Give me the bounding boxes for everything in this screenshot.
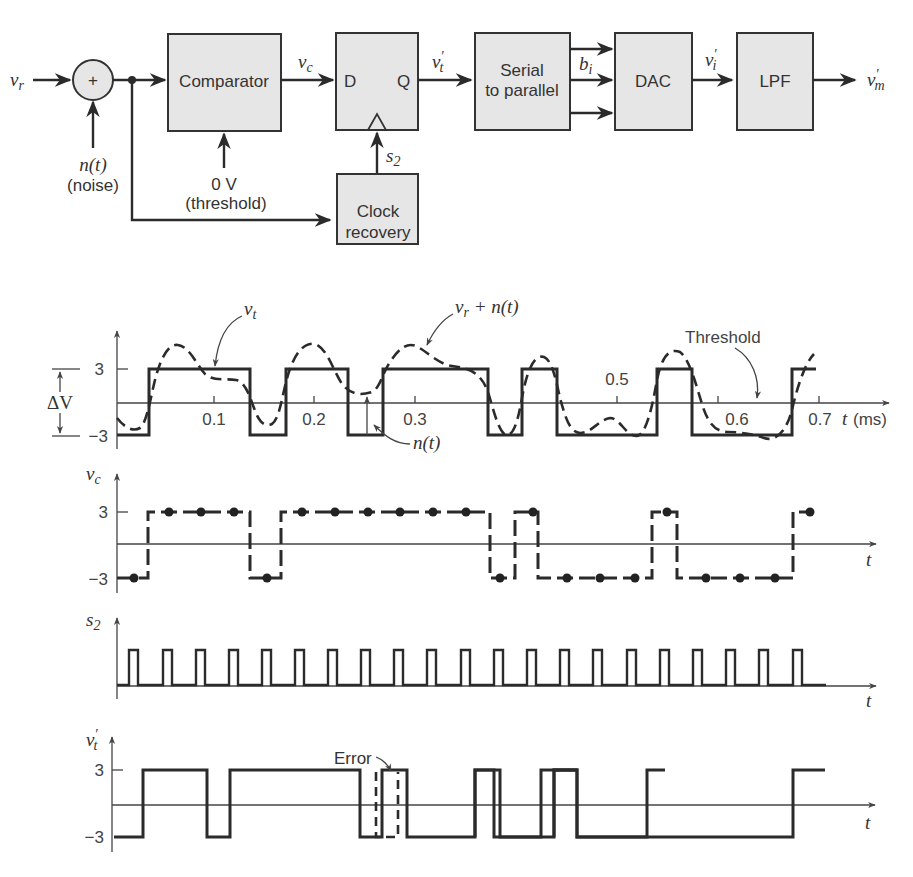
plot4-ylabel: v′t [86,727,99,753]
clock-recovery-label-line1: Clock [357,202,400,221]
threshold-annotation-arrow [735,348,758,398]
figure-canvas: vr + n(t) (noise) Comparator 0 V (thresh… [0,0,913,877]
plot1-xaxis-t-label: t [842,408,848,429]
clock-recovery-label-line2: recovery [345,223,411,242]
plot1-ytick-label-3: 3 [95,360,104,379]
plot-clock-s2: s2 t [86,609,876,711]
plot1-xaxis-unit: (ms) [853,410,887,429]
comparator-label: Comparator [179,72,269,91]
vt-prime-square-wave [114,770,665,837]
vc-signal-label: vc [298,51,313,75]
vt-annotation-label: vt [244,298,257,322]
error-annotation-label: Error [334,749,372,768]
plot1-xtick-label-0.5: 0.5 [605,370,629,389]
plot1-xtick-label-0.6: 0.6 [725,410,749,429]
vt-prime-mid [475,770,577,837]
plot1-xtick-label-0.3: 0.3 [403,410,427,429]
vt-prime-tail [554,770,825,837]
plot-regenerated-output: v′t 3 −3 t Error [85,727,875,852]
vr-plus-noise-annotation-label: vr + n(t) [455,296,519,320]
summer-plus-sign: + [88,71,98,90]
plot2-ytick-label-3: 3 [99,503,108,522]
dac-label: DAC [635,72,671,91]
noise-label: n(t) [79,154,106,176]
plot2-ytick-label-m3: −3 [89,570,108,589]
vc-square-wave [117,512,810,578]
plot1-xtick-label-0.7: 0.7 [808,410,832,429]
threshold-value: 0 V [211,175,237,194]
s2-signal-label: s2 [386,145,400,169]
plot1-ytick-label-m3: −3 [89,427,108,446]
flipflop-d-label: D [344,72,356,91]
plot4-ytick-label-3: 3 [95,761,104,780]
bi-signal-label: bi [579,53,593,77]
plot1-xtick-label-0.2: 0.2 [302,410,326,429]
noise-sample-label: n(t) [413,432,440,454]
plot4-xaxis-label: t [865,812,871,833]
input-vr-label: vr [10,69,24,93]
plot-transmitted-and-received: 0.1 0.2 0.3 0.5 0.6 0.7 t (ms) 3 −3 ΔV v… [47,296,889,454]
plot1-x-ticks [214,396,819,403]
delta-v-label: ΔV [47,392,73,413]
s2-clock-pulses [117,650,826,685]
plot4-ytick-label-m3: −3 [85,828,104,847]
vc-sample-points [130,508,815,583]
serial-to-parallel-label-line1: Serial [500,61,543,80]
plot1-xtick-label-0.1: 0.1 [202,410,226,429]
flipflop-q-label: Q [397,72,410,91]
vr-plus-noise-annotation-arrow [427,314,453,345]
vi-prime-signal-label: v′i [705,47,717,73]
block-diagram: vr + n(t) (noise) Comparator 0 V (thresh… [10,33,885,244]
threshold-caption: (threshold) [185,194,266,213]
plot2-xaxis-label: t [866,549,872,570]
threshold-annotation-label: Threshold [685,328,761,347]
lpf-label: LPF [759,72,790,91]
vm-prime-output-label: v′m [867,67,885,93]
plot3-xaxis-label: t [866,690,872,711]
vt-annotation-arrow [215,316,242,366]
vt-prime-signal-label: v′t [432,49,445,75]
plot-comparator-output: vc 3 −3 t [86,463,876,593]
plot2-ylabel: vc [86,463,101,487]
noise-caption: (noise) [67,176,119,195]
serial-to-parallel-label-line2: to parallel [485,81,559,100]
plot3-ylabel: s2 [86,609,100,633]
